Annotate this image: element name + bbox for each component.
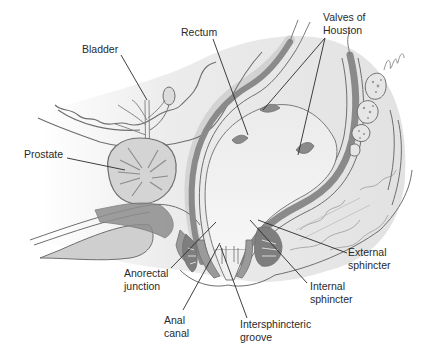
label-valves-of-houston: Valves of Houston: [323, 11, 365, 37]
artist-signature: [384, 54, 404, 70]
prostate-gland: [108, 138, 177, 204]
label-internal-sphincter: Internal sphincter: [310, 280, 353, 306]
rectum-anatomy-illustration: [0, 0, 423, 363]
label-intersphincteric-groove: Intersphincteric groove: [240, 318, 311, 344]
label-rectum: Rectum: [181, 26, 217, 39]
label-external-sphincter: External sphincter: [348, 246, 391, 272]
label-prostate: Prostate: [24, 148, 63, 161]
label-anal-canal: Anal canal: [164, 314, 189, 340]
label-anorectal-junction: Anorectal junction: [124, 267, 168, 293]
label-bladder: Bladder: [82, 43, 118, 56]
